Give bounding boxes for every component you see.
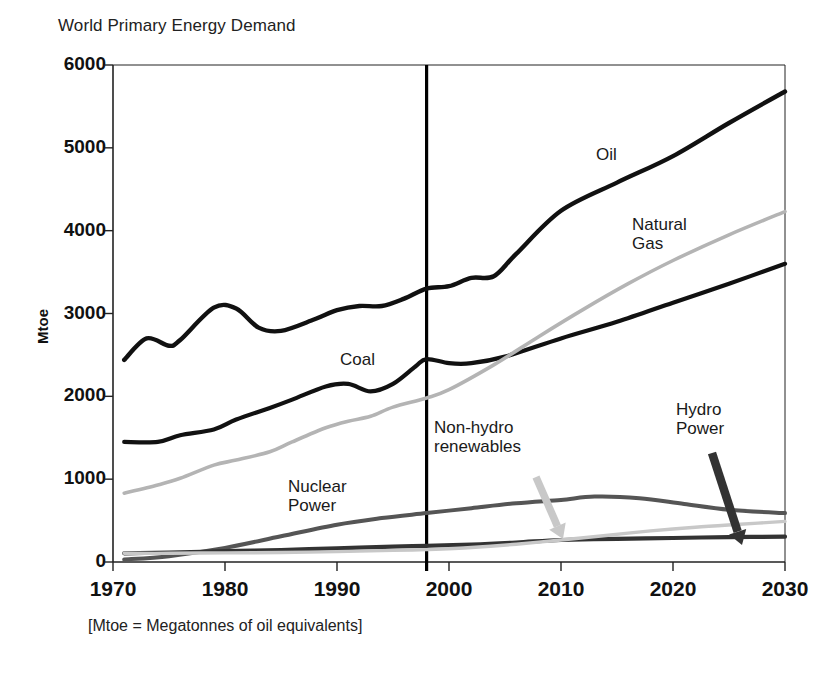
chart-figure: World Primary Energy Demand Mtoe 6000500… [0, 0, 836, 674]
series-group [124, 92, 785, 560]
series-label-coal: Coal [340, 350, 375, 369]
chart-footnote: [Mtoe = Megatonnes of oil equivalents] [88, 617, 362, 635]
series-line-hydro-power [124, 537, 785, 554]
series-label-natural-gas: Natural Gas [632, 215, 687, 253]
hydro-power-arrow-shaft [712, 453, 738, 532]
series-label-hydro-power: Hydro Power [676, 400, 724, 438]
axes-group [105, 65, 785, 571]
series-label-nuclear-power: Nuclear Power [288, 477, 347, 515]
series-label-non-hydro-renewables: Non-hydro renewables [434, 418, 521, 456]
series-label-oil: Oil [596, 145, 617, 164]
plot-canvas [0, 0, 836, 674]
